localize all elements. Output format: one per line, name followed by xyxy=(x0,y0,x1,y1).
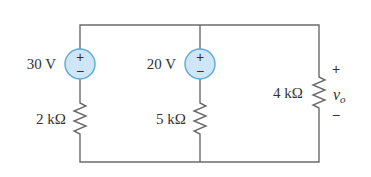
vo-label: vo xyxy=(333,86,346,105)
resistor-label: 5 kΩ xyxy=(156,111,186,127)
voltage-source-left: + − 30 V xyxy=(27,49,95,79)
resistor-right: 4 kΩ xyxy=(273,73,325,113)
output-voltage: + vo − xyxy=(332,61,346,123)
plus-sign: + xyxy=(332,61,340,77)
circuit-diagram: + − 30 V + − 20 V 2 kΩ 5 kΩ 4 kΩ + vo − xyxy=(0,0,371,177)
resistor-label: 2 kΩ xyxy=(36,111,66,127)
minus-sign: − xyxy=(332,107,340,123)
minus-sign: − xyxy=(196,63,204,79)
resistor-label: 4 kΩ xyxy=(273,85,303,101)
voltage-source-middle: + − 20 V xyxy=(147,49,215,79)
minus-sign: − xyxy=(76,63,84,79)
source-label: 30 V xyxy=(27,56,56,72)
resistor-left: 2 kΩ xyxy=(36,99,86,139)
resistor-middle: 5 kΩ xyxy=(156,99,206,139)
source-label: 20 V xyxy=(147,56,176,72)
